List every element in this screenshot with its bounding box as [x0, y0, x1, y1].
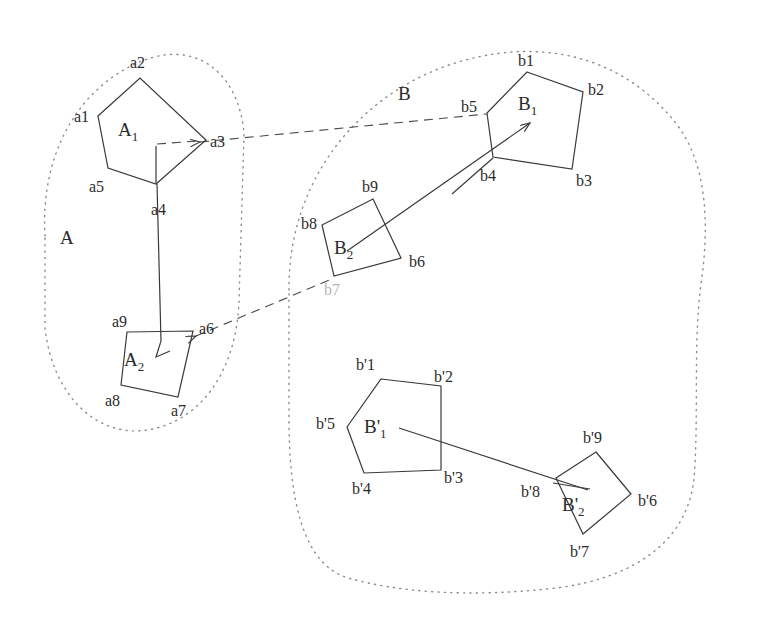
polygon-label-B2: B2	[334, 237, 353, 262]
vertex-label-a7: a7	[171, 402, 186, 419]
connector-a3-stub-dashed	[157, 141, 198, 144]
vertex-labels-Bp2: b'6 b'7 b'8 b'9	[521, 429, 657, 560]
vertex-label-bp3: b'3	[444, 469, 463, 486]
vertex-label-a4: a4	[151, 201, 166, 218]
vertex-labels-B2: b6 b7 b8 b9	[301, 178, 425, 298]
vertex-label-a6: a6	[199, 320, 214, 337]
vertex-label-bp6: b'6	[638, 492, 657, 509]
vertex-label-a8: a8	[105, 392, 120, 409]
vertex-label-a2: a2	[130, 54, 145, 71]
vertex-label-a1: a1	[74, 108, 89, 125]
polygon-label-A1: A1	[118, 119, 138, 144]
vertex-labels-A2: a6 a7 a8 a9	[105, 313, 214, 419]
polygon-Bp2[interactable]	[553, 452, 631, 534]
polygon-A1[interactable]	[98, 78, 206, 184]
diagram-svg: A B A1 A2 B1 B2 B'1 B'2 a1 a2 a3 a4 a5 a…	[0, 0, 774, 639]
vertex-label-b9: b9	[362, 178, 378, 195]
vertex-label-bp9: b'9	[583, 429, 602, 446]
connector-a6-to-b7-dashed	[196, 278, 334, 336]
polygon-Bp1[interactable]	[347, 379, 441, 473]
connector-Bp2-internal	[553, 483, 590, 489]
polygon-B1-outline[interactable]	[487, 72, 583, 169]
polygon-label-Bp1: B'1	[364, 416, 387, 441]
set-label-B: B	[398, 83, 411, 104]
vertex-label-bp8: b'8	[521, 483, 540, 500]
vertex-label-b1: b1	[518, 52, 534, 69]
vertex-label-bp1: b'1	[356, 356, 375, 373]
vertex-label-b4: b4	[480, 167, 496, 184]
vertex-label-b3: b3	[576, 172, 592, 189]
polygon-Bp2-outline[interactable]	[556, 452, 631, 534]
polygon-label-A2: A2	[124, 349, 144, 374]
vertex-label-bp7: b'7	[570, 543, 589, 560]
connector-Bp1-to-Bp2	[399, 428, 588, 490]
vertex-label-bp5: b'5	[316, 415, 335, 432]
set-boundaries	[45, 51, 706, 592]
polygon-A1-outline[interactable]	[98, 78, 206, 184]
polygon-B1[interactable]	[487, 72, 583, 169]
vertex-label-b5: b5	[461, 98, 477, 115]
polygon-Bp1-outline[interactable]	[347, 379, 441, 473]
set-label-A: A	[60, 227, 74, 248]
vertex-label-b7: b7	[324, 281, 340, 298]
vertex-label-a9: a9	[112, 313, 127, 330]
vertex-label-a3: a3	[210, 133, 225, 150]
polygon-label-B1: B1	[518, 93, 537, 118]
polygon-name-labels: A1 A2 B1 B2 B'1 B'2	[118, 93, 585, 519]
set-B-boundary	[289, 51, 705, 592]
diagram-canvas: A B A1 A2 B1 B2 B'1 B'2 a1 a2 a3 a4 a5 a…	[0, 0, 774, 639]
vertex-label-a5: a5	[89, 178, 104, 195]
vertex-label-b6: b6	[409, 253, 425, 270]
vertex-label-b2: b2	[588, 81, 604, 98]
vertex-label-bp4: b'4	[352, 480, 371, 497]
vertex-label-b8: b8	[301, 215, 317, 232]
vertex-labels-B1: b1 b2 b3 b4 b5	[461, 52, 604, 189]
vertex-label-bp2: b'2	[434, 368, 453, 385]
